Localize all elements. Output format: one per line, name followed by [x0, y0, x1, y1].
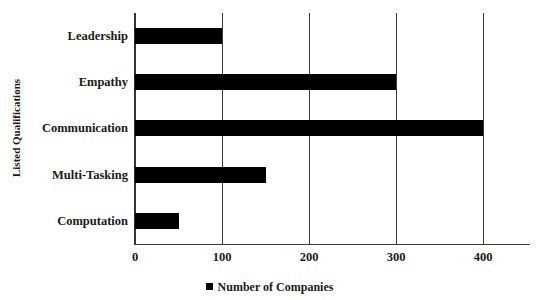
- chart-row: Computation: [0, 198, 539, 244]
- x-tick-label-300: 300: [366, 250, 426, 265]
- y-axis-label-computation: Computation: [0, 198, 128, 244]
- x-tick-label-100: 100: [192, 250, 252, 265]
- chart-row: Empathy: [0, 59, 539, 105]
- chart-title: [0, 0, 539, 3]
- bar-chart: Listed Qualifications LeadershipEmpathyC…: [0, 0, 539, 300]
- bar-communication[interactable]: [135, 120, 483, 136]
- chart-row: Multi-Tasking: [0, 152, 539, 198]
- bar-computation[interactable]: [135, 213, 179, 229]
- y-axis-label-empathy: Empathy: [0, 59, 128, 105]
- y-axis-label-communication: Communication: [0, 105, 128, 151]
- legend-label: Number of Companies: [218, 280, 334, 295]
- bar-empathy[interactable]: [135, 74, 396, 90]
- legend: Number of Companies: [0, 279, 539, 295]
- x-tick-label-200: 200: [279, 250, 339, 265]
- bar-multi-tasking[interactable]: [135, 167, 266, 183]
- chart-row: Leadership: [0, 13, 539, 59]
- x-tick-label-0: 0: [105, 250, 165, 265]
- bar-leadership[interactable]: [135, 28, 222, 44]
- x-tick-label-400: 400: [453, 250, 513, 265]
- y-axis-label-multi-tasking: Multi-Tasking: [0, 152, 128, 198]
- chart-row: Communication: [0, 105, 539, 151]
- legend-swatch-icon: [206, 283, 213, 290]
- x-axis-line: [134, 244, 530, 245]
- y-axis-label-leadership: Leadership: [0, 13, 128, 59]
